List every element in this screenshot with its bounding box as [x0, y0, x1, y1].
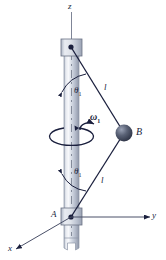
upper-angle-label: θ1 — [74, 86, 81, 97]
lower-angle-label: θ1 — [74, 167, 81, 178]
point-label-A: A — [51, 210, 57, 219]
point-label-B: B — [136, 127, 142, 137]
angular-velocity-label: ω1 — [90, 112, 100, 124]
axis-label-y: y — [152, 211, 156, 220]
omega-subscript: 1 — [97, 118, 100, 124]
sphere-B — [116, 125, 133, 142]
upper-rod-length-label: l — [104, 83, 107, 92]
x-axis — [16, 217, 71, 249]
top-pivot-dot — [68, 44, 73, 49]
mechanics-figure: z x y B A l l θ1 θ1 ω1 — [0, 0, 166, 260]
lower-rod-length-label: l — [101, 176, 104, 185]
lower-angle-subscript: 1 — [78, 172, 81, 178]
axis-label-x: x — [8, 244, 12, 253]
axis-label-z: z — [68, 2, 72, 11]
upper-angle-subscript: 1 — [78, 91, 81, 97]
